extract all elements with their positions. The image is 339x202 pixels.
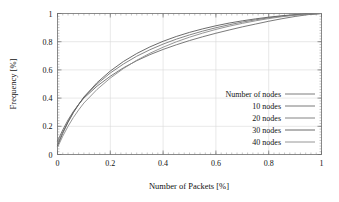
- x-axis-title: Number of Packets [%]: [149, 181, 229, 191]
- x-tick-label: 0: [56, 159, 60, 168]
- x-axis-tick-labels: 00.20.40.60.81: [56, 159, 324, 168]
- x-tick-label: 0.6: [211, 159, 221, 168]
- y-tick-label: 0.6: [43, 66, 53, 75]
- y-tick-label: 0.4: [43, 94, 53, 103]
- y-tick-label: 0.2: [43, 122, 53, 131]
- legend-label-20-nodes: 20 nodes: [252, 114, 281, 123]
- y-axis-tick-labels: 00.20.40.60.81: [43, 10, 53, 160]
- curve-20-nodes: [58, 14, 322, 144]
- y-tick-label: 1: [49, 10, 53, 19]
- y-tick-label: 0.8: [43, 38, 53, 47]
- legend-label-40-nodes: 40 nodes: [252, 138, 281, 147]
- legend-label-30-nodes: 30 nodes: [252, 126, 281, 135]
- x-tick-label: 1: [320, 159, 324, 168]
- curve-40-nodes: [58, 14, 322, 148]
- chart-figure: 00.20.40.60.81 00.20.40.60.81 Number of …: [0, 0, 339, 202]
- x-tick-label: 0.8: [264, 159, 274, 168]
- x-tick-label: 0.4: [158, 159, 168, 168]
- legend-title: Number of nodes: [225, 90, 281, 99]
- y-tick-label: 0: [49, 151, 53, 160]
- x-tick-label: 0.2: [105, 159, 115, 168]
- chart-canvas: 00.20.40.60.81 00.20.40.60.81 Number of …: [0, 0, 339, 202]
- legend-label-10-nodes: 10 nodes: [252, 102, 281, 111]
- data-curves: [58, 14, 322, 148]
- y-axis-title: Frequency [%]: [8, 58, 18, 109]
- legend: Number of nodes10 nodes20 nodes30 nodes4…: [225, 90, 315, 147]
